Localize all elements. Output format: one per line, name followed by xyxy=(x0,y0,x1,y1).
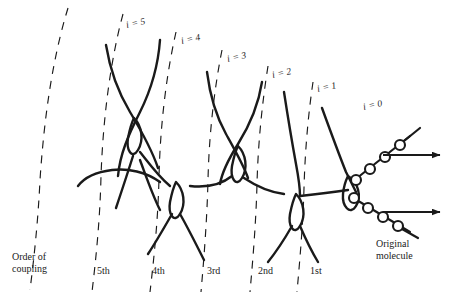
strand-3-to-2-right xyxy=(244,178,284,194)
upper-bead-chain-bead-3 xyxy=(380,152,390,162)
diagram-figure: i = 5i = 4i = 3i = 2i = 1i = 0 5th4th3rd… xyxy=(0,0,450,299)
strand-gen5-a xyxy=(106,45,158,168)
bead-chains xyxy=(349,128,420,238)
order-4th-label: 4th xyxy=(152,265,165,276)
strand-node2-dn-right xyxy=(300,226,318,262)
direction-arrows xyxy=(383,155,440,212)
arc-3 xyxy=(201,50,222,292)
strand-node4-dn-right xyxy=(180,214,204,260)
order-3rd-label: 3rd xyxy=(207,265,220,276)
strand-gen2-a xyxy=(284,92,300,196)
arc-5-outer xyxy=(30,8,68,290)
order-caption-line1: Order of xyxy=(12,251,47,263)
upper-bead-chain-bead-2 xyxy=(365,164,375,174)
polymer-strands xyxy=(78,40,359,262)
node4-loop xyxy=(170,182,184,218)
order-5th-label: 5th xyxy=(97,265,110,276)
lower-bead-chain-bead-2 xyxy=(363,203,373,213)
upper-bead-chain-bead-1 xyxy=(351,175,361,185)
lower-bead-chain-bead-4 xyxy=(393,221,403,231)
order-of-coupling-caption: Order of coupling xyxy=(12,251,47,275)
strand-5-to-4-dn xyxy=(116,156,133,208)
generation-boundaries xyxy=(30,8,313,292)
molecule-caption-line1: Original xyxy=(376,238,413,250)
upper-bead-chain-tail xyxy=(404,128,420,141)
order-2nd-label: 2nd xyxy=(258,265,273,276)
order-caption-line2: coupling xyxy=(12,263,47,275)
upper-bead-chain-bead-4 xyxy=(395,140,405,150)
lower-bead-chain-tail xyxy=(402,229,418,238)
node2-loop xyxy=(290,194,304,230)
strand-trunk xyxy=(300,190,348,196)
order-1st-label: 1st xyxy=(310,265,322,276)
original-molecule-caption: Original molecule xyxy=(376,238,413,262)
strand-node4-dn-left xyxy=(148,214,172,254)
arc-4 xyxy=(150,32,176,292)
upper-bead-chain xyxy=(351,128,420,185)
lower-bead-chain xyxy=(349,193,418,238)
strand-node2-dn-left xyxy=(268,226,292,262)
strand-3-to-2-left xyxy=(190,176,232,187)
lower-bead-chain-bead-3 xyxy=(378,212,388,222)
lower-bead-chain-bead-1 xyxy=(349,193,359,203)
molecule-caption-line2: molecule xyxy=(376,250,413,262)
